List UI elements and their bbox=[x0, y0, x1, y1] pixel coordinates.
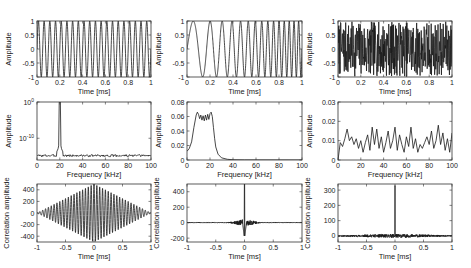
subplot-p23: 02040608010000.010.020.03Frequency [kHz]… bbox=[305, 99, 458, 180]
y-tick-label: 1 bbox=[181, 18, 185, 25]
x-tick-label: 20 bbox=[357, 162, 365, 169]
x-tick-label: 1 bbox=[300, 79, 304, 86]
x-tick-label: 20 bbox=[56, 162, 64, 169]
x-tick-label: 1 bbox=[149, 79, 153, 86]
x-tick-label: 0 bbox=[185, 79, 189, 86]
subplot-p11: 00.20.40.60.81-1-0.500.51Time [ms]Amplit… bbox=[4, 18, 153, 97]
figure-grid: 00.20.40.60.81-1-0.500.51Time [ms]Amplit… bbox=[0, 0, 471, 268]
y-tick-label: 200 bbox=[324, 202, 336, 209]
y-tick-label: -200 bbox=[170, 235, 184, 242]
data-line bbox=[187, 112, 302, 160]
y-tick-label: 0.02 bbox=[322, 118, 336, 125]
data-line bbox=[187, 21, 302, 77]
x-tick-label: 60 bbox=[102, 162, 110, 169]
y-tick-label: -0.5 bbox=[323, 60, 335, 67]
y-tick-label: 100 bbox=[23, 97, 34, 106]
x-tick-label: 80 bbox=[425, 162, 433, 169]
x-tick-label: -1 bbox=[34, 244, 40, 251]
y-tick-label: -1 bbox=[329, 74, 335, 81]
x-tick-label: 100 bbox=[296, 162, 308, 169]
x-tick-label: 0.5 bbox=[268, 244, 278, 251]
y-tick-label: 0 bbox=[332, 157, 336, 164]
y-tick-label: 0 bbox=[181, 219, 185, 226]
y-axis-label: Amplitude bbox=[305, 32, 314, 65]
x-tick-label: 80 bbox=[124, 162, 132, 169]
y-axis-label: Correlation amplitude bbox=[152, 177, 161, 248]
x-tick-label: 0.6 bbox=[101, 79, 111, 86]
axes-box bbox=[37, 102, 151, 160]
y-axis-label: Amplitude bbox=[305, 114, 314, 147]
x-tick-label: 0.4 bbox=[228, 79, 238, 86]
y-tick-label: 0 bbox=[332, 232, 336, 239]
data-line bbox=[37, 21, 151, 77]
x-axis-label: Time [ms] bbox=[78, 252, 111, 261]
data-line bbox=[37, 102, 151, 157]
x-tick-label: 60 bbox=[403, 162, 411, 169]
x-tick-label: 40 bbox=[229, 162, 237, 169]
x-tick-label: 0 bbox=[336, 79, 340, 86]
data-line bbox=[338, 186, 452, 238]
y-tick-label: -400 bbox=[20, 233, 34, 240]
y-tick-label: 400 bbox=[173, 188, 185, 195]
y-tick-label: 0 bbox=[181, 46, 185, 53]
y-tick-label: 1 bbox=[31, 18, 35, 25]
y-tick-label: 200 bbox=[173, 204, 185, 211]
y-tick-label: 0 bbox=[31, 210, 35, 217]
x-tick-label: 20 bbox=[206, 162, 214, 169]
data-line bbox=[187, 184, 302, 236]
x-tick-label: 0 bbox=[185, 162, 189, 169]
subplot-p13: 00.20.40.60.81-1-0.500.51Time [ms]Amplit… bbox=[305, 18, 454, 97]
x-tick-label: 0 bbox=[35, 79, 39, 86]
y-tick-label: 0 bbox=[181, 157, 185, 164]
x-tick-label: -0.5 bbox=[210, 244, 222, 251]
x-tick-label: 0.8 bbox=[424, 79, 434, 86]
x-axis-label: Time [ms] bbox=[379, 87, 412, 96]
y-tick-label: 0.5 bbox=[25, 32, 35, 39]
x-tick-label: 0.5 bbox=[419, 244, 429, 251]
x-tick-label: 0.4 bbox=[379, 79, 389, 86]
x-tick-label: 0.6 bbox=[251, 79, 261, 86]
x-tick-label: -1 bbox=[184, 244, 190, 251]
y-axis-label: Amplitude bbox=[4, 32, 13, 65]
x-tick-label: 1 bbox=[450, 244, 454, 251]
y-tick-label: 0.06 bbox=[171, 113, 185, 120]
y-axis-label: Correlation amplitude bbox=[303, 177, 312, 248]
y-tick-label: 1 bbox=[332, 18, 336, 25]
y-tick-label: 0.04 bbox=[171, 128, 185, 135]
x-axis-label: Time [ms] bbox=[228, 252, 261, 261]
subplot-p31: -1-0.500.51-400-2000200400Time [ms]Corre… bbox=[2, 177, 153, 261]
x-tick-label: 100 bbox=[145, 162, 157, 169]
data-line bbox=[338, 125, 452, 160]
x-tick-label: 0 bbox=[35, 162, 39, 169]
y-tick-label: 0 bbox=[31, 46, 35, 53]
x-tick-label: 0.2 bbox=[356, 79, 366, 86]
y-tick-label: 0 bbox=[332, 46, 336, 53]
subplot-p33: -1-0.500.510100200300Time [ms]Correlatio… bbox=[303, 177, 454, 261]
y-axis-label: Amplitude bbox=[154, 32, 163, 65]
y-tick-label: 10-10 bbox=[19, 133, 34, 142]
subplot-p32: -1-0.500.51-2000200400Time [ms]Correlati… bbox=[152, 177, 304, 261]
x-tick-label: 0.2 bbox=[55, 79, 65, 86]
x-tick-label: 0 bbox=[336, 162, 340, 169]
x-tick-label: 40 bbox=[79, 162, 87, 169]
data-line bbox=[338, 22, 452, 77]
x-axis-label: Frequency [kHz] bbox=[67, 170, 122, 179]
x-axis-label: Time [ms] bbox=[228, 87, 261, 96]
x-tick-label: 0 bbox=[92, 244, 96, 251]
x-tick-label: 0.5 bbox=[118, 244, 128, 251]
x-tick-label: 0.8 bbox=[274, 79, 284, 86]
x-tick-label: -0.5 bbox=[360, 244, 372, 251]
x-tick-label: 0.4 bbox=[78, 79, 88, 86]
x-tick-label: -1 bbox=[335, 244, 341, 251]
subplot-p12: 00.20.40.60.81-1-0.500.51Time [ms]Amplit… bbox=[154, 18, 304, 97]
y-tick-label: -200 bbox=[20, 221, 34, 228]
x-axis-label: Frequency [kHz] bbox=[217, 170, 272, 179]
y-axis-label: Correlation amplitude bbox=[2, 177, 11, 248]
y-tick-label: 200 bbox=[23, 198, 35, 205]
y-tick-label: 0.03 bbox=[322, 99, 336, 106]
x-tick-label: 100 bbox=[446, 162, 458, 169]
x-tick-label: 80 bbox=[275, 162, 283, 169]
subplot-p22: 02040608010000.020.040.060.08Frequency [… bbox=[154, 99, 308, 180]
subplot-p21: 02040608010010010-10Frequency [kHz]Ampli… bbox=[4, 97, 157, 179]
y-tick-label: 0.01 bbox=[322, 137, 336, 144]
